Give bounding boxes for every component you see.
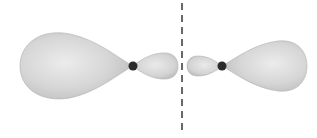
left-small-lobe [133, 53, 178, 79]
left-nucleus [129, 62, 138, 71]
left-large-lobe [20, 33, 133, 99]
orbital-diagram-svg [0, 0, 317, 138]
right-nucleus [218, 62, 227, 71]
right-orbital [187, 41, 307, 91]
orbital-diagram [0, 0, 317, 138]
right-small-lobe [187, 56, 222, 76]
right-large-lobe [222, 41, 307, 91]
left-orbital [20, 33, 178, 99]
